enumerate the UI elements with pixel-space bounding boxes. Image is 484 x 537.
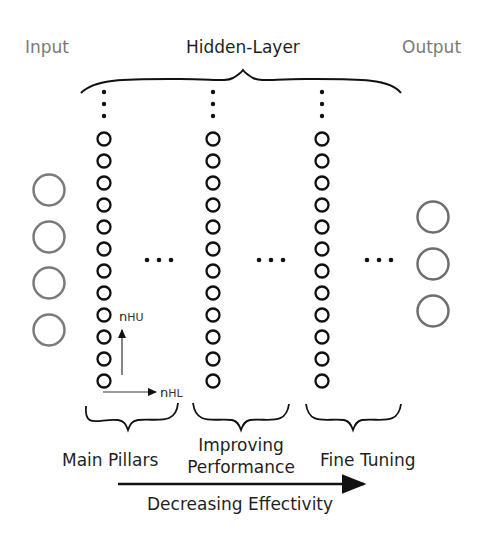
hidden-layer-brace: [81, 70, 401, 93]
group-label-fine-tuning: Fine Tuning: [320, 449, 416, 471]
hidden-column-1: [98, 133, 111, 388]
hidden-layer-label: Hidden-Layer: [186, 37, 300, 57]
input-layer: [34, 175, 65, 346]
brace-main-pillars: [86, 403, 178, 430]
input-label: Input: [25, 37, 69, 57]
hidden-column-3: [316, 133, 329, 388]
units-axis-label: nHU: [119, 309, 144, 324]
hidden-column-2: [207, 133, 220, 388]
layers-axis-label: nHL: [160, 385, 183, 400]
vertical-ellipsis: [102, 90, 324, 118]
output-label: Output: [402, 37, 461, 57]
brace-fine-tuning: [306, 404, 401, 430]
direction-label: Decreasing Effectivity: [147, 494, 333, 514]
output-layer: [418, 202, 449, 327]
group-label-main-pillars: Main Pillars: [62, 449, 158, 471]
brace-improving-performance: [193, 403, 289, 430]
horizontal-ellipsis: [145, 258, 394, 263]
group-label-improving-performance: Improving Performance: [186, 434, 296, 478]
